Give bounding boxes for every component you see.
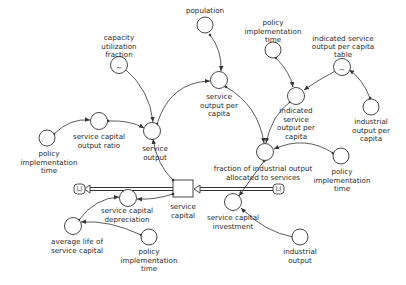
svg-text:policyimplementationtime: policyimplementationtime — [121, 247, 178, 273]
svg-text:average life ofservice capital: average life ofservice capital — [51, 237, 103, 255]
fioas-node[interactable] — [257, 144, 274, 161]
cloud-source-icon — [273, 184, 284, 194]
industrial-output-node[interactable] — [292, 229, 308, 245]
service-capital-stock[interactable] — [173, 180, 193, 197]
svg-text:policyimplementationtime: policyimplementationtime — [314, 167, 371, 193]
svg-text:serviceoutput: serviceoutput — [142, 144, 168, 162]
svg-text:service capitalinvestment: service capitalinvestment — [207, 213, 259, 231]
population-node[interactable] — [197, 17, 213, 33]
service-capital-output-ratio-node[interactable] — [91, 113, 108, 130]
svg-text:servicecapital: servicecapital — [170, 202, 196, 220]
table-tilde-icon: ~ — [116, 63, 122, 72]
auxiliary-nodes: ~ ~ — [39, 17, 379, 245]
service-output-node[interactable] — [144, 123, 161, 140]
svg-text:policyimplementationtime: policyimplementationtime — [21, 149, 78, 175]
service-output-per-capita-node[interactable] — [211, 72, 228, 89]
policy-time-node-2[interactable] — [39, 130, 55, 146]
indicated-sopc-node[interactable] — [288, 88, 305, 105]
svg-text:industrialoutput percapita: industrialoutput percapita — [352, 117, 390, 143]
service-capital-investment-node[interactable] — [225, 194, 242, 211]
svg-text:capacityutilizationfraction: capacityutilizationfraction — [101, 33, 136, 59]
svg-text:service capitaloutput ratio: service capitaloutput ratio — [73, 132, 125, 150]
svg-text:fraction of industrial outputa: fraction of industrial outputallocated t… — [214, 164, 313, 182]
svg-text:industrialoutput: industrialoutput — [283, 247, 317, 265]
svg-text:service capitaldepreciation: service capitaldepreciation — [101, 206, 153, 224]
svg-text:indicatedserviceoutput percapi: indicatedserviceoutput percapita — [277, 106, 315, 141]
svg-text:policyimplementationtime: policyimplementationtime — [245, 18, 302, 44]
policy-time-node-3[interactable] — [333, 148, 349, 164]
cloud-sink-icon — [74, 184, 85, 194]
investment-flow-pipe — [194, 185, 273, 193]
table-tilde-icon: ~ — [339, 65, 345, 74]
svg-text:indicated serviceoutput per ca: indicated serviceoutput per capitatable — [312, 34, 374, 59]
svg-text:serviceoutput percapita: serviceoutput percapita — [200, 92, 238, 118]
svg-text:population: population — [186, 6, 224, 15]
industrial-output-per-capita-node[interactable] — [363, 99, 379, 115]
policy-time-node-4[interactable] — [141, 229, 157, 245]
service-capital-depreciation-node[interactable] — [120, 190, 137, 207]
policy-time-node-1[interactable] — [265, 42, 281, 58]
stock-flow-diagram: ~ ~ capacityutilizationfraction populati… — [0, 0, 406, 285]
average-life-node[interactable] — [65, 218, 82, 235]
